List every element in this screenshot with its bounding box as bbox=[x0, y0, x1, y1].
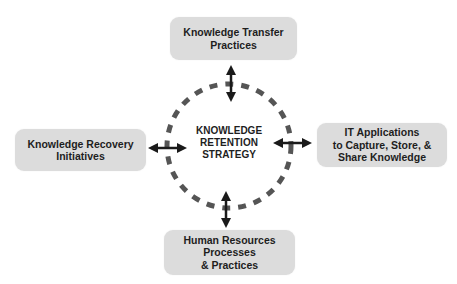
center-label-knowledge-retention-strategy: KNOWLEDGE RETENTION STRATEGY bbox=[179, 125, 279, 161]
node-label-line: Initiatives bbox=[56, 150, 104, 163]
node-human-resources-processes: Human Resources Processes & Practices bbox=[164, 230, 295, 275]
node-label-line: Knowledge Transfer bbox=[183, 26, 283, 39]
center-label-line: KNOWLEDGE bbox=[179, 125, 279, 137]
node-knowledge-transfer-practices: Knowledge Transfer Practices bbox=[170, 17, 297, 60]
node-label-line: & Practices bbox=[201, 259, 258, 272]
center-label-line: STRATEGY bbox=[179, 149, 279, 161]
node-label-line: Human Resources bbox=[183, 234, 275, 247]
node-label-line: Knowledge Recovery bbox=[27, 138, 133, 151]
node-label-line: IT Applications bbox=[345, 126, 420, 139]
center-label-line: RETENTION bbox=[179, 137, 279, 149]
node-knowledge-recovery-initiatives: Knowledge Recovery Initiatives bbox=[15, 129, 146, 171]
node-label-line: to Capture, Store, & bbox=[333, 139, 432, 152]
node-label-line: Practices bbox=[210, 39, 257, 52]
node-it-applications: IT Applications to Capture, Store, & Sha… bbox=[317, 123, 447, 167]
node-label-line: Share Knowledge bbox=[338, 151, 426, 164]
node-label-line: Processes bbox=[203, 246, 256, 259]
